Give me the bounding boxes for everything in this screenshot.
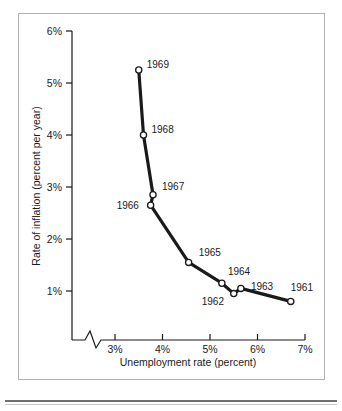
y-tick-label: 4% bbox=[47, 129, 62, 141]
x-tick-label: 6% bbox=[250, 343, 265, 355]
data-point-label-1965: 1965 bbox=[199, 247, 222, 258]
x-tick-label: 5% bbox=[202, 343, 217, 355]
data-point-label-1962: 1962 bbox=[202, 296, 225, 307]
footer-rule-primary bbox=[5, 400, 337, 402]
data-point-label-1963: 1963 bbox=[251, 281, 274, 292]
footer-rule-secondary bbox=[5, 404, 337, 405]
data-point-markers bbox=[136, 67, 294, 305]
y-tick-label: 5% bbox=[47, 77, 62, 89]
phillips-curve-chart: 1%2%3%4%5%6% 3%4%5%6%7% 1969196819671966… bbox=[0, 0, 342, 411]
data-point-label-1968: 1968 bbox=[152, 124, 175, 135]
y-axis-tick-labels: 1%2%3%4%5%6% bbox=[47, 25, 62, 297]
data-point-label-1966: 1966 bbox=[117, 200, 140, 211]
data-point-marker-1969 bbox=[136, 67, 142, 73]
y-axis-ticks bbox=[66, 31, 72, 291]
data-point-marker-1968 bbox=[140, 132, 146, 138]
x-tick-label: 7% bbox=[297, 343, 312, 355]
x-tick-label: 3% bbox=[107, 343, 122, 355]
data-point-marker-1966 bbox=[148, 202, 154, 208]
data-point-marker-1963 bbox=[238, 285, 244, 291]
x-tick-label: 4% bbox=[155, 343, 170, 355]
data-point-labels: 196919681967196619651964196219631961 bbox=[117, 59, 314, 307]
y-tick-label: 2% bbox=[47, 233, 62, 245]
x-axis-ticks bbox=[115, 334, 305, 340]
figure-root: 1%2%3%4%5%6% 3%4%5%6%7% 1969196819671966… bbox=[0, 0, 342, 411]
x-axis-tick-labels: 3%4%5%6%7% bbox=[107, 343, 312, 355]
data-point-label-1967: 1967 bbox=[162, 181, 185, 192]
data-point-label-1964: 1964 bbox=[228, 266, 251, 277]
data-point-marker-1967 bbox=[150, 192, 156, 198]
data-point-marker-1962 bbox=[231, 291, 237, 297]
data-point-marker-1965 bbox=[186, 259, 192, 265]
data-point-label-1969: 1969 bbox=[147, 59, 170, 70]
y-tick-label: 3% bbox=[47, 181, 62, 193]
data-point-label-1961: 1961 bbox=[291, 282, 314, 293]
y-axis-title: Rate of inflation (percent per year) bbox=[30, 106, 42, 265]
y-tick-label: 1% bbox=[47, 285, 62, 297]
y-tick-label: 6% bbox=[47, 25, 62, 37]
x-axis-title: Unemployment rate (percent) bbox=[120, 356, 257, 368]
data-point-marker-1961 bbox=[288, 298, 294, 304]
data-point-marker-1964 bbox=[219, 280, 225, 286]
